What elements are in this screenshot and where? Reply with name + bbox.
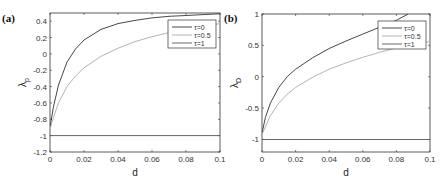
x-tick-label: 0.06 [355, 155, 371, 164]
x-axis-label: d [343, 167, 349, 178]
x-tick-label: 0.1 [214, 155, 226, 164]
x-tick-label: 0.1 [424, 155, 436, 164]
y-tick-label: -1 [252, 135, 260, 144]
y-tick-label: 0.4 [36, 17, 48, 26]
chart-panel-a: 00.020.040.060.080.10.40.20-0.2-0.4-0.6-… [2, 12, 226, 178]
y-tick-label: -0.8 [33, 115, 47, 124]
x-tick-label: 0.08 [389, 155, 405, 164]
y-tick-label: 0.5 [248, 41, 260, 50]
y-tick-label: -1 [40, 132, 48, 141]
x-tick-label: 0.04 [110, 155, 126, 164]
y-tick-label: 0 [255, 73, 260, 82]
series-line [262, 42, 430, 135]
x-tick-label: 0 [48, 155, 53, 164]
y-tick-label: 0 [43, 50, 48, 59]
x-axis-label: d [132, 167, 138, 178]
y-tick-label: 1 [255, 10, 260, 19]
legend: τ=0τ=0.5τ=1 [378, 21, 426, 49]
panel-label: (b) [224, 12, 238, 25]
y-tick-label: -0.2 [33, 66, 47, 75]
legend-entry: τ=0 [194, 24, 205, 31]
legend-entry: τ=0.5 [404, 33, 421, 40]
figure: 00.020.040.060.080.10.40.20-0.2-0.4-0.6-… [0, 0, 448, 182]
x-tick-label: 0.06 [144, 155, 160, 164]
legend-entry: τ=0.5 [194, 32, 211, 39]
legend-entry: τ=0 [404, 25, 415, 32]
y-tick-label: -0.5 [245, 104, 259, 113]
legend: τ=0τ=0.5τ=1 [168, 20, 216, 48]
x-tick-label: 0.08 [178, 155, 194, 164]
y-tick-label: -0.6 [33, 99, 47, 108]
y-axis-label: λp [17, 78, 31, 87]
y-tick-label: 0.2 [36, 34, 48, 43]
x-tick-label: 0.02 [288, 155, 304, 164]
y-axis-label: λD [229, 78, 242, 88]
y-tick-label: -0.4 [33, 83, 47, 92]
x-tick-label: 0.04 [321, 155, 337, 164]
y-tick-label: -1.2 [33, 148, 47, 157]
x-tick-label: 0.02 [76, 155, 92, 164]
chart-panel-b: 00.020.040.060.080.110.50-0.5-1(b)dλDτ=0… [224, 10, 436, 178]
x-tick-label: 0 [260, 155, 265, 164]
legend-entry: τ=1 [194, 40, 205, 47]
panel-label: (a) [2, 12, 15, 25]
legend-entry: τ=1 [404, 41, 415, 48]
